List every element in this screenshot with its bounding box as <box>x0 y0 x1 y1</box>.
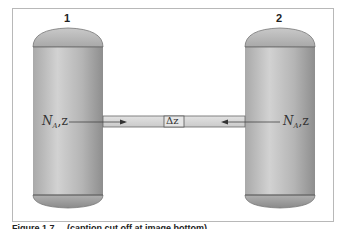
flux-suffix: ,z <box>299 114 309 128</box>
flux-label-left: NA,z <box>42 114 68 130</box>
flux-suffix: ,z <box>58 114 68 128</box>
flux-symbol: N <box>42 114 53 128</box>
figure-caption: Figure 1.7 ... (caption cut off at image… <box>12 223 342 229</box>
caption-text: Figure 1.7 ... (caption cut off at image… <box>12 223 342 229</box>
flux-symbol: N <box>283 114 294 128</box>
vessel-2-label: 2 <box>276 12 282 24</box>
delta-z-label: Δz <box>166 115 179 126</box>
vessel-1-label: 1 <box>64 12 70 24</box>
flux-label-right: NA,z <box>283 114 309 130</box>
